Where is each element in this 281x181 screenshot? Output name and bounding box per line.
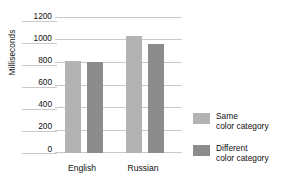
y-tick-rule-0	[22, 153, 57, 154]
y-tick-label-800: 800	[18, 56, 52, 65]
legend-item-same[interactable]: Same color category	[193, 112, 281, 131]
y-tick-label-600: 600	[18, 78, 52, 87]
plot-area	[57, 17, 180, 153]
y-tick-label-400: 400	[18, 100, 52, 109]
y-tick-rule-200	[22, 131, 57, 132]
legend-label-different: Different color category	[216, 144, 269, 163]
y-tick-rule-800	[22, 65, 57, 66]
bar-english-different[interactable]	[87, 62, 103, 153]
chart-title	[0, 0, 281, 1]
gridline-1000	[55, 39, 182, 40]
y-axis-title: Milliseconds	[8, 17, 17, 89]
y-tick-label-1200: 1200	[18, 12, 52, 21]
gridline-1200	[55, 17, 182, 18]
legend-swatch-different-icon	[193, 145, 210, 156]
legend-label-same: Same color category	[216, 112, 269, 131]
bar-russian-same[interactable]	[126, 36, 142, 153]
y-tick-rule-600	[22, 87, 57, 88]
y-tick-rule-1200	[22, 21, 57, 22]
y-tick-label-200: 200	[18, 122, 52, 131]
legend-item-different[interactable]: Different color category	[193, 144, 281, 163]
bar-english-same[interactable]	[65, 61, 81, 153]
x-category-label-english: English	[53, 163, 111, 173]
y-tick-rule-1000	[22, 43, 57, 44]
legend-swatch-same-icon	[193, 113, 210, 124]
legend-label-different-line2: color category	[216, 154, 269, 164]
legend: Same color category Different color cate…	[193, 112, 281, 176]
y-tick-label-1000: 1000	[18, 34, 52, 43]
x-category-label-russian: Russian	[114, 163, 172, 173]
bar-russian-different[interactable]	[148, 44, 164, 153]
y-tick-rule-400	[22, 109, 57, 110]
legend-label-same-line2: color category	[216, 122, 269, 132]
bar-chart: Milliseconds 1200 1000 800 600 400 200 0…	[0, 0, 281, 181]
